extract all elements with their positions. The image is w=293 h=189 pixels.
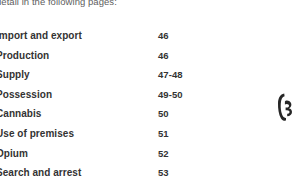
entry-label: Cannabis: [0, 108, 41, 119]
list-item: Import and export 46: [0, 30, 293, 50]
list-item: Search and arrest 53: [0, 167, 293, 187]
entry-page-number: 49-50: [158, 89, 183, 100]
entry-page-number: 46: [158, 50, 169, 61]
entry-page-number: 53: [158, 167, 169, 178]
list-item: Possession 49-50: [0, 89, 293, 109]
list-item: Opium 52: [0, 148, 293, 168]
entry-label: Opium: [0, 148, 28, 159]
entry-label: Import and export: [0, 30, 82, 41]
entry-label: Possession: [0, 89, 52, 100]
intro-line: detail in the following pages:: [0, 0, 196, 8]
entry-page-number: 46: [158, 30, 169, 41]
contents-list: Import and export 46 Production 46 Suppl…: [0, 30, 293, 187]
entry-label: Production: [0, 50, 49, 61]
entry-label: Use of premises: [0, 128, 74, 139]
entry-page-number: 47-48: [158, 69, 183, 80]
entry-page-number: 50: [158, 108, 169, 119]
document-page: detail in the following pages: Import an…: [0, 0, 293, 189]
entry-label: Search and arrest: [0, 167, 81, 178]
list-item: Use of premises 51: [0, 128, 293, 148]
entry-page-number: 52: [158, 148, 169, 159]
list-item: Supply 47-48: [0, 69, 293, 89]
list-item: Production 46: [0, 50, 293, 70]
list-item: Cannabis 50: [0, 108, 293, 128]
entry-label: Supply: [0, 69, 30, 80]
entry-page-number: 51: [158, 128, 169, 139]
